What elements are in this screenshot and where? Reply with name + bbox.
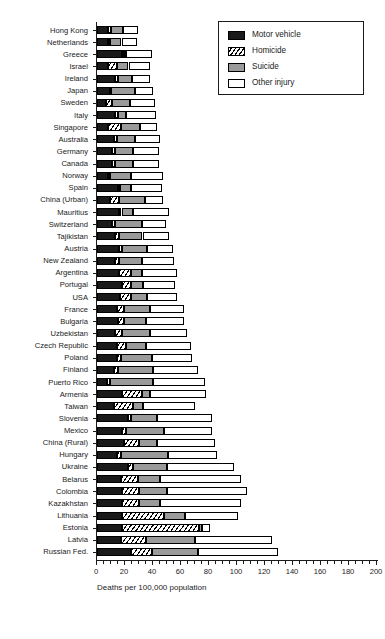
bar-segment-motor[interactable] bbox=[97, 366, 114, 374]
bar-segment-homicide[interactable] bbox=[117, 305, 124, 313]
bar-segment-motor[interactable] bbox=[97, 281, 122, 289]
bar-segment-homicide[interactable] bbox=[119, 269, 130, 277]
bar-segment-suicide[interactable] bbox=[117, 62, 128, 70]
bar-segment-suicide[interactable] bbox=[124, 317, 146, 325]
bar-segment-homicide[interactable] bbox=[124, 439, 139, 447]
bar-segment-homicide[interactable] bbox=[108, 62, 117, 70]
bar-segment-motor[interactable] bbox=[97, 123, 108, 131]
bar-segment-homicide[interactable] bbox=[115, 329, 122, 337]
bar-segment-other[interactable] bbox=[140, 123, 157, 131]
bar-segment-motor[interactable] bbox=[97, 451, 117, 459]
bar-segment-other[interactable] bbox=[157, 439, 214, 447]
bar-segment-homicide[interactable] bbox=[122, 390, 142, 398]
bar-segment-other[interactable] bbox=[195, 536, 272, 544]
bar-segment-motor[interactable] bbox=[97, 184, 118, 192]
bar-segment-suicide[interactable] bbox=[121, 451, 169, 459]
bar-segment-other[interactable] bbox=[135, 135, 160, 143]
bar-segment-suicide[interactable] bbox=[131, 293, 146, 301]
bar-segment-other[interactable] bbox=[129, 62, 150, 70]
bar-segment-other[interactable] bbox=[150, 305, 184, 313]
bar-segment-other[interactable] bbox=[146, 317, 184, 325]
bar-segment-motor[interactable] bbox=[97, 512, 122, 520]
bar-segment-motor[interactable] bbox=[97, 293, 120, 301]
bar-segment-suicide[interactable] bbox=[110, 172, 131, 180]
bar-segment-suicide[interactable] bbox=[119, 196, 144, 204]
bar-segment-motor[interactable] bbox=[97, 427, 122, 435]
bar-segment-motor[interactable] bbox=[97, 147, 112, 155]
bar-segment-homicide[interactable] bbox=[114, 402, 134, 410]
bar-segment-homicide[interactable] bbox=[122, 524, 199, 532]
bar-segment-motor[interactable] bbox=[97, 50, 122, 58]
bar-segment-motor[interactable] bbox=[97, 342, 117, 350]
bar-segment-suicide[interactable] bbox=[139, 487, 167, 495]
bar-segment-homicide[interactable] bbox=[121, 475, 138, 483]
bar-segment-motor[interactable] bbox=[97, 38, 108, 46]
bar-segment-suicide[interactable] bbox=[139, 499, 160, 507]
bar-segment-suicide[interactable] bbox=[124, 305, 151, 313]
bar-segment-other[interactable] bbox=[150, 390, 206, 398]
bar-segment-motor[interactable] bbox=[97, 26, 108, 34]
bar-segment-other[interactable] bbox=[126, 111, 155, 119]
bar-segment-other[interactable] bbox=[126, 50, 151, 58]
bar-segment-other[interactable] bbox=[131, 184, 162, 192]
bar-segment-motor[interactable] bbox=[97, 305, 117, 313]
bar-segment-suicide[interactable] bbox=[131, 414, 158, 422]
bar-segment-other[interactable] bbox=[202, 524, 210, 532]
bar-segment-motor[interactable] bbox=[97, 269, 119, 277]
bar-segment-motor[interactable] bbox=[97, 329, 115, 337]
bar-segment-motor[interactable] bbox=[97, 548, 131, 556]
bar-segment-homicide[interactable] bbox=[122, 281, 130, 289]
bar-segment-other[interactable] bbox=[145, 196, 163, 204]
bar-segment-suicide[interactable] bbox=[110, 38, 121, 46]
bar-segment-suicide[interactable] bbox=[152, 548, 198, 556]
bar-segment-other[interactable] bbox=[147, 245, 172, 253]
bar-segment-motor[interactable] bbox=[97, 354, 117, 362]
bar-segment-motor[interactable] bbox=[97, 220, 112, 228]
bar-segment-suicide[interactable] bbox=[138, 475, 160, 483]
bar-segment-other[interactable] bbox=[153, 366, 198, 374]
bar-segment-suicide[interactable] bbox=[126, 427, 164, 435]
bar-segment-suicide[interactable] bbox=[121, 123, 141, 131]
bar-segment-other[interactable] bbox=[131, 172, 163, 180]
bar-segment-motor[interactable] bbox=[97, 257, 115, 265]
bar-segment-motor[interactable] bbox=[97, 245, 119, 253]
bar-segment-suicide[interactable] bbox=[131, 269, 142, 277]
bar-segment-motor[interactable] bbox=[97, 439, 124, 447]
bar-segment-motor[interactable] bbox=[97, 499, 122, 507]
bar-segment-suicide[interactable] bbox=[119, 257, 141, 265]
bar-segment-other[interactable] bbox=[123, 26, 138, 34]
bar-segment-other[interactable] bbox=[133, 147, 158, 155]
bar-segment-suicide[interactable] bbox=[122, 245, 147, 253]
bar-segment-other[interactable] bbox=[160, 499, 241, 507]
bar-segment-motor[interactable] bbox=[97, 208, 119, 216]
bar-segment-motor[interactable] bbox=[97, 487, 122, 495]
bar-segment-other[interactable] bbox=[146, 342, 191, 350]
bar-segment-motor[interactable] bbox=[97, 62, 108, 70]
bar-segment-motor[interactable] bbox=[97, 536, 121, 544]
bar-segment-suicide[interactable] bbox=[133, 402, 143, 410]
bar-segment-suicide[interactable] bbox=[118, 366, 153, 374]
bar-segment-other[interactable] bbox=[133, 160, 158, 168]
bar-segment-suicide[interactable] bbox=[117, 135, 135, 143]
bar-segment-motor[interactable] bbox=[97, 99, 106, 107]
bar-segment-other[interactable] bbox=[147, 293, 178, 301]
bar-segment-suicide[interactable] bbox=[164, 512, 185, 520]
bar-segment-other[interactable] bbox=[142, 257, 174, 265]
bar-segment-suicide[interactable] bbox=[111, 26, 123, 34]
bar-segment-motor[interactable] bbox=[97, 524, 122, 532]
bar-segment-other[interactable] bbox=[130, 99, 155, 107]
bar-segment-suicide[interactable] bbox=[121, 354, 152, 362]
bar-segment-motor[interactable] bbox=[97, 232, 115, 240]
bar-segment-other[interactable] bbox=[152, 354, 193, 362]
bar-segment-motor[interactable] bbox=[97, 317, 118, 325]
bar-segment-suicide[interactable] bbox=[126, 342, 146, 350]
bar-segment-homicide[interactable] bbox=[121, 536, 146, 544]
bar-segment-other[interactable] bbox=[143, 232, 170, 240]
bar-segment-homicide[interactable] bbox=[120, 293, 131, 301]
bar-segment-other[interactable] bbox=[150, 329, 186, 337]
bar-segment-suicide[interactable] bbox=[122, 329, 150, 337]
bar-segment-suicide[interactable] bbox=[119, 232, 143, 240]
bar-segment-suicide[interactable] bbox=[142, 390, 150, 398]
bar-segment-other[interactable] bbox=[153, 378, 205, 386]
bar-segment-other[interactable] bbox=[132, 75, 150, 83]
